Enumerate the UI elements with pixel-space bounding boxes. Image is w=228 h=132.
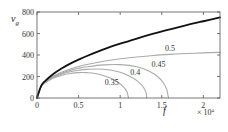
x-multiplier-base: × 10 xyxy=(197,108,212,117)
x-tick-label: 0.5 xyxy=(74,101,84,110)
y-tick-label: 600 xyxy=(22,30,34,39)
y-axis-label: vg xyxy=(11,13,19,27)
x-axis-multiplier: × 104 xyxy=(197,108,215,117)
curves-group xyxy=(37,17,220,98)
y-tick-label: 800 xyxy=(22,8,34,17)
y-axis-label-subscript: g xyxy=(15,19,19,27)
y-tick-label: 200 xyxy=(22,73,34,82)
x-tick-label: 1 xyxy=(118,101,122,110)
curve-label-0-5: 0.5 xyxy=(165,44,175,53)
curve-label-0-4: 0.4 xyxy=(130,68,140,77)
y-tick-label: 0 xyxy=(30,94,34,103)
chart: 00.511.5202004006008000.50.450.40.35 vg … xyxy=(0,0,228,132)
curve-label-0-45: 0.45 xyxy=(151,60,165,69)
x-tick-label: 0 xyxy=(35,101,39,110)
y-tick-label: 400 xyxy=(22,51,34,60)
ticks-group xyxy=(37,12,220,98)
plot-frame xyxy=(37,12,220,98)
x-multiplier-exponent: 4 xyxy=(212,108,215,113)
labels-group: 00.511.5202004006008000.50.450.40.35 xyxy=(22,8,205,110)
curve-label-0-35: 0.35 xyxy=(105,78,119,87)
